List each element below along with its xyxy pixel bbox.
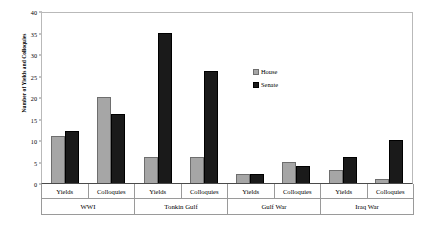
bar-house	[236, 174, 250, 183]
group-axis-row: WWITonkin GulfGulf WarIraq War	[41, 199, 414, 215]
bar-group	[320, 13, 366, 183]
bar-chart: Number of Yields and Colloquies 05101520…	[0, 0, 422, 233]
bar-group	[366, 13, 412, 183]
bar-house	[144, 157, 158, 183]
legend-item: Senate	[253, 81, 278, 88]
group-label: Tonkin Gulf	[135, 199, 228, 215]
y-axis-tick-label: 25	[31, 73, 37, 80]
bar-senate	[250, 174, 264, 183]
category-label: Colloquies	[89, 184, 136, 199]
bar-house	[329, 170, 343, 183]
bar-house	[97, 97, 111, 183]
bar-senate	[65, 131, 79, 183]
category-axis-row: YieldsColloquiesYieldsColloquiesYieldsCo…	[41, 184, 414, 199]
category-label: Yields	[321, 184, 368, 199]
category-label: Yields	[135, 184, 182, 199]
group-label: WWI	[42, 199, 135, 215]
category-label: Colloquies	[275, 184, 322, 199]
y-axis-tick-label: 15	[31, 116, 37, 123]
category-label: Colloquies	[182, 184, 229, 199]
bar-group	[181, 13, 227, 183]
bar-senate	[111, 114, 125, 183]
legend-item: House	[253, 68, 278, 75]
legend: HouseSenate	[253, 68, 278, 94]
bar-senate	[204, 71, 218, 183]
y-axis-tick-label: 35	[31, 30, 37, 37]
bar-house	[190, 157, 204, 183]
category-label: Colloquies	[368, 184, 415, 199]
bar-series-container	[42, 13, 412, 183]
bar-house	[51, 136, 65, 183]
bar-senate	[158, 33, 172, 184]
category-label: Yields	[42, 184, 89, 199]
bar-senate	[343, 157, 357, 183]
bar-group	[42, 13, 88, 183]
legend-item-label: House	[261, 68, 277, 75]
y-axis-tick-labels: 0510152025303540	[23, 12, 39, 184]
bar-house	[375, 179, 389, 183]
bar-group	[227, 13, 273, 183]
group-label: Iraq War	[321, 199, 414, 215]
house-swatch-icon	[253, 69, 259, 75]
legend-item-label: Senate	[261, 81, 278, 88]
bar-senate	[389, 140, 403, 183]
y-axis-tick-label: 30	[31, 52, 37, 59]
bar-senate	[296, 166, 310, 183]
group-label: Gulf War	[228, 199, 321, 215]
y-axis-tick-label: 20	[31, 95, 37, 102]
bar-house	[282, 162, 296, 184]
bar-group	[135, 13, 181, 183]
category-label: Yields	[228, 184, 275, 199]
senate-swatch-icon	[253, 82, 259, 88]
y-axis-tick-label: 0	[34, 181, 37, 188]
plot-area	[41, 12, 413, 184]
bar-group	[273, 13, 319, 183]
y-axis-tick-label: 5	[34, 159, 37, 166]
y-axis-tick-label: 40	[31, 9, 37, 16]
bar-group	[88, 13, 134, 183]
y-axis-tick-label: 10	[31, 138, 37, 145]
